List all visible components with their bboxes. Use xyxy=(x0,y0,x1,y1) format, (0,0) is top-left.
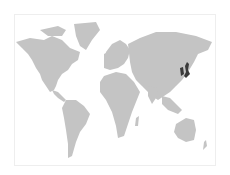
world-map xyxy=(0,0,230,175)
uk[interactable] xyxy=(104,52,108,60)
new-zealand[interactable] xyxy=(203,140,207,150)
central-america[interactable] xyxy=(52,90,66,102)
arctic-islands[interactable] xyxy=(40,26,66,36)
australia[interactable] xyxy=(174,118,196,142)
india[interactable] xyxy=(148,86,158,104)
madagascar[interactable] xyxy=(135,116,139,126)
greenland[interactable] xyxy=(74,22,100,50)
asia[interactable] xyxy=(128,32,212,100)
africa[interactable] xyxy=(100,72,140,138)
south-america[interactable] xyxy=(62,100,90,158)
north-america[interactable] xyxy=(16,36,80,92)
southeast-asia[interactable] xyxy=(162,96,182,114)
